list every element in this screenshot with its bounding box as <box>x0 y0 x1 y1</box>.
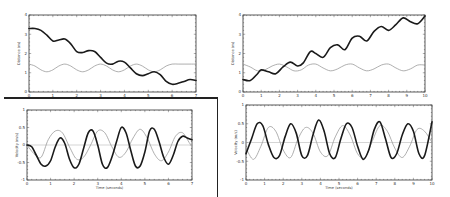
y-tick-label: -0.5 <box>236 159 244 164</box>
x-tick-label: 6 <box>356 181 359 186</box>
chart-bottom-left-svg: 01234567-1-0.500.51Time (seconds)Velocit… <box>0 97 225 197</box>
y-tick-label: 1 <box>238 70 241 75</box>
series-line-dark <box>27 127 192 168</box>
y-tick-label: 0 <box>22 142 25 147</box>
series-line-dark <box>243 16 425 81</box>
y-tick-label: 0 <box>241 140 244 145</box>
x-tick-label: 2 <box>282 181 285 186</box>
y-tick-label: 3 <box>238 32 241 37</box>
y-tick-label: 1 <box>241 102 244 107</box>
y-tick-label: 0.5 <box>238 121 245 126</box>
x-tick-label: 7 <box>191 181 194 186</box>
chart-top-left-svg: 0123456701234Time (seconds)Distance (m) <box>0 0 225 97</box>
chart-top-right-svg: 01234567891001234Time (seconds)Distance … <box>225 0 450 97</box>
y-tick-label: 1 <box>24 70 27 75</box>
y-tick-label: -1 <box>21 177 25 182</box>
y-tick-label: 2 <box>24 51 27 56</box>
x-tick-label: 6 <box>167 181 170 186</box>
x-tick-label: 7 <box>375 181 378 186</box>
chart-top-left: 0123456701234Time (seconds)Distance (m) <box>0 0 225 97</box>
y-tick-label: 4 <box>238 12 241 17</box>
y-tick-label: 4 <box>24 12 27 17</box>
y-axis-title: Distance (m) <box>231 41 235 65</box>
x-tick-label: 1 <box>263 181 266 186</box>
series-line-light <box>29 64 196 72</box>
x-tick-label: 3 <box>301 181 304 186</box>
y-tick-label: -1 <box>240 177 244 182</box>
y-tick-label: 1 <box>22 107 25 112</box>
y-tick-label: -0.5 <box>17 160 25 165</box>
x-tick-label: 4 <box>319 181 322 186</box>
y-tick-label: 3 <box>24 32 27 37</box>
x-tick-label: 5 <box>144 181 147 186</box>
plot-frame <box>29 15 196 92</box>
x-tick-label: 1 <box>49 181 52 186</box>
series-line-light <box>243 64 425 71</box>
x-axis-title: Time (seconds) <box>95 186 124 190</box>
y-axis-title: Velocity (m/s) <box>15 132 19 157</box>
horizontal-divider <box>4 97 218 99</box>
chart-bottom-left: 01234567-1-0.500.51Time (seconds)Velocit… <box>0 97 225 197</box>
vertical-divider <box>217 97 218 197</box>
plot-frame <box>243 15 425 92</box>
y-tick-label: 0.5 <box>19 125 26 130</box>
x-tick-label: 8 <box>394 181 397 186</box>
x-tick-label: 0 <box>26 181 29 186</box>
x-axis-title: Time (seconds) <box>324 186 353 190</box>
y-tick-label: 2 <box>238 51 241 56</box>
chart-bottom-right-svg: 012345678910-1-0.500.51Time (seconds)Vel… <box>225 97 450 197</box>
chart-top-right: 01234567891001234Time (seconds)Distance … <box>225 0 450 97</box>
x-tick-label: 10 <box>429 181 435 186</box>
series-line-dark <box>246 120 432 159</box>
y-axis-title: Velocity (m/s) <box>234 130 238 155</box>
y-axis-title: Distance (m) <box>17 41 21 65</box>
x-tick-label: 9 <box>412 181 415 186</box>
x-tick-label: 2 <box>73 181 76 186</box>
chart-bottom-right: 012345678910-1-0.500.51Time (seconds)Vel… <box>225 97 450 197</box>
x-tick-label: 0 <box>245 181 248 186</box>
series-line-dark <box>29 28 196 84</box>
